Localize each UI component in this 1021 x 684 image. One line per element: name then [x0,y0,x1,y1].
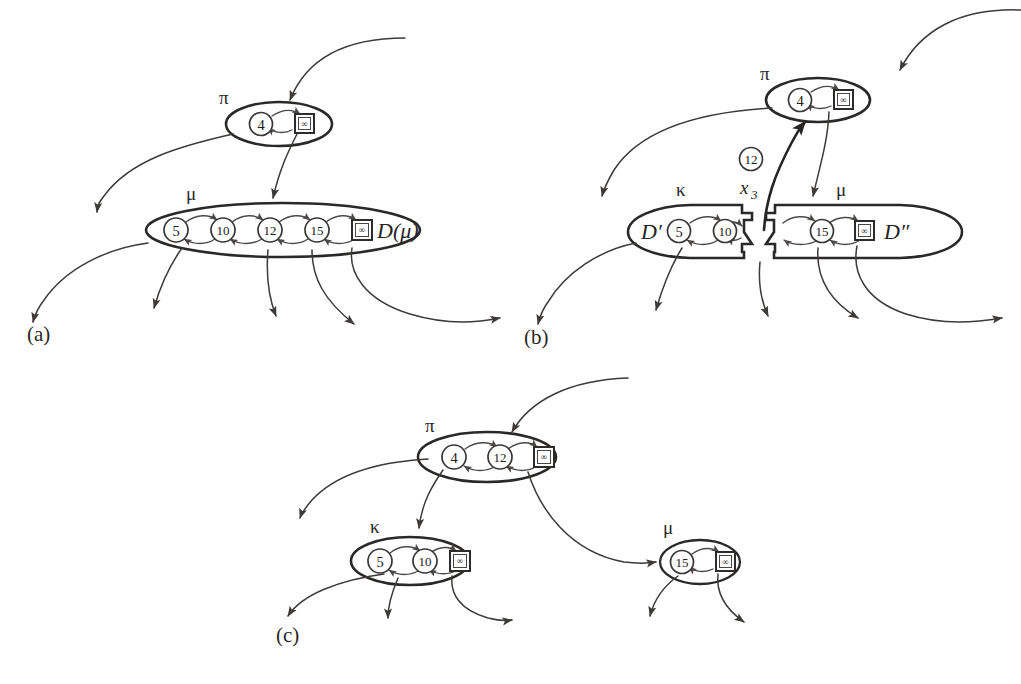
panel-label-c: (c) [276,623,299,647]
pi-to-mu-pointer-curve [528,472,656,563]
outgoing-pointer-curve [759,262,768,316]
outgoing-pointer-curve [33,243,148,322]
node-key-label: 15 [676,555,689,570]
set-name-pi: π [219,87,229,108]
outgoing-pointer-curve [300,459,428,518]
panel-b-key-label-group: x 3 [739,177,758,202]
pi-to-mu-pointer-curve [813,112,829,196]
incoming-pointer-curve [290,38,405,100]
set-name-pi: π [425,415,435,436]
node-key-label: 10 [217,223,230,238]
node-key-label: 4 [796,93,804,109]
panel-b: 4 ∞ π D′ 5 10 κ [524,10,1021,349]
outgoing-pointer-curve [351,248,500,322]
panel-a-set-pi[interactable]: 4 ∞ [226,102,332,146]
panel-b-set-kappa[interactable]: D′ 5 10 [628,205,752,258]
outgoing-pointer-curve [452,576,512,621]
panel-label-b: (b) [524,325,549,349]
node-key-label: 5 [376,554,383,570]
panel-b-set-pi[interactable]: 4 ∞ [766,78,870,122]
panel-a: 4 ∞ π 5 10 [27,38,500,346]
figure-container: 4 ∞ π 5 10 [0,0,1021,684]
outgoing-pointer-curve [154,248,182,308]
outgoing-pointer-curve [288,574,384,616]
set-name-kappa: κ [676,179,686,200]
node-key-label: 15 [311,223,324,238]
panel-b-set-mu[interactable]: 15 ∞ D″ [766,205,962,258]
set-name-kappa: κ [370,516,380,537]
set-ellipse-pi [766,78,870,122]
figure-canvas: 4 ∞ π 5 10 [0,0,1021,684]
nil-infinity-glyph: ∞ [541,452,547,462]
outgoing-pointer-curve [538,243,636,324]
set-name-mu: μ [663,517,673,538]
nil-infinity-glyph: ∞ [457,556,463,566]
set-data-label: D(μ) [376,218,419,243]
nil-infinity-glyph: ∞ [359,225,365,235]
node-key-label: 5 [675,224,682,240]
node-key-label: 4 [257,117,265,133]
set-ellipse-pi [226,102,332,146]
panel-c: 4 12 ∞ π 5 10 ∞ [276,378,744,647]
node-key-label: 12 [494,450,507,465]
panel-b-floating-node[interactable]: 12 [740,148,763,171]
panel-c-set-pi[interactable]: 4 12 ∞ [418,432,556,482]
set-name-mu: μ [836,179,846,200]
panel-a-set-mu[interactable]: 5 10 12 15 ∞ D(μ) [146,203,420,257]
incoming-pointer-curve [512,378,628,432]
nil-infinity-glyph: ∞ [840,95,846,105]
node-key-label: 15 [816,224,829,239]
outgoing-pointer-curve [267,250,276,316]
node-key-label: 5 [172,223,179,239]
incoming-pointer-curve [900,10,1021,70]
pi-to-kappa-pointer-curve [419,470,443,528]
node-key-label: 12 [264,223,277,238]
set-data-label: D′ [640,219,663,244]
nil-infinity-glyph: ∞ [861,226,867,236]
key-variable-subscript: 3 [750,187,758,202]
node-key-label: 10 [719,224,732,239]
set-data-label: D″ [883,219,910,244]
outgoing-pointer-curve [97,134,233,212]
outgoing-pointer-curve [650,576,678,616]
node-key-label: 10 [419,554,432,569]
outgoing-pointer-curve [312,250,354,324]
nil-infinity-glyph: ∞ [722,557,728,567]
nil-infinity-glyph: ∞ [301,119,307,129]
set-name-pi: π [760,63,770,84]
key-variable-label: x [739,177,749,198]
panel-label-a: (a) [27,322,50,346]
node-key-label: 12 [745,152,758,167]
panel-c-set-mu[interactable]: 15 ∞ [660,540,740,584]
node-key-label: 4 [450,450,458,466]
set-name-mu: μ [186,183,196,204]
